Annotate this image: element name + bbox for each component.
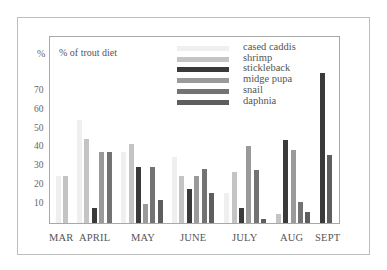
- bar-mar-shrimp: [63, 176, 68, 223]
- legend-swatch-shrimp: [177, 57, 229, 62]
- x-tick-april: APRIL: [79, 232, 110, 243]
- bar-sept-daphnia: [327, 155, 332, 223]
- legend-swatch-snail: [177, 89, 229, 94]
- bar-june-cased-caddis: [172, 157, 177, 223]
- bar-aug-daphnia: [305, 212, 310, 223]
- y-tick-30: 30: [34, 160, 48, 170]
- bar-may-cased-caddis: [121, 152, 126, 223]
- bar-april-midge-pupa: [99, 152, 104, 223]
- x-tick-mar: MAR: [49, 232, 74, 243]
- bar-june-daphnia: [209, 193, 214, 223]
- bar-aug-midge-pupa: [291, 150, 296, 223]
- legend-item-daphnia: daphnia: [177, 97, 317, 108]
- y-tick-20: 20: [34, 179, 48, 189]
- bar-april-stickleback: [92, 208, 97, 223]
- bar-aug-snail: [298, 202, 303, 223]
- legend-label: midge pupa: [243, 73, 292, 84]
- legend-swatch-stickleback: [177, 67, 229, 72]
- legend-swatch-midge-pupa: [177, 78, 229, 83]
- y-tick-60: 60: [34, 104, 48, 114]
- bar-july-midge-pupa: [246, 146, 251, 223]
- bar-may-stickleback: [136, 167, 141, 223]
- bar-july-daphnia: [261, 219, 266, 223]
- x-tick-aug: AUG: [280, 232, 303, 243]
- legend-label: cased caddis: [243, 41, 296, 52]
- bar-mar-cased-caddis: [56, 176, 61, 223]
- bar-june-midge-pupa: [194, 176, 199, 223]
- x-tick-july: JULY: [232, 232, 257, 243]
- y-tick-50: 50: [34, 123, 48, 133]
- y-tick-40: 40: [34, 141, 48, 151]
- bar-april-cased-caddis: [77, 120, 82, 223]
- bar-july-stickleback: [239, 208, 244, 223]
- bar-june-snail: [202, 169, 207, 223]
- legend-label: daphnia: [243, 95, 276, 106]
- legend-label: snail: [243, 84, 263, 95]
- x-tick-may: MAY: [131, 232, 155, 243]
- bar-july-cased-caddis: [224, 193, 229, 223]
- bar-june-shrimp: [179, 176, 184, 223]
- bar-may-daphnia: [158, 200, 163, 223]
- bar-april-snail: [107, 152, 112, 223]
- bar-sept-stickleback: [320, 73, 325, 223]
- chart-title: % of trout diet: [59, 47, 117, 58]
- x-tick-sept: SEPT: [315, 232, 340, 243]
- y-axis-unit-label: %: [37, 48, 45, 59]
- legend-swatch-cased-caddis: [177, 46, 229, 51]
- bar-aug-stickleback: [283, 140, 288, 223]
- bar-july-shrimp: [232, 172, 237, 223]
- legend-label: shrimp: [243, 52, 272, 63]
- y-tick-10: 10: [34, 198, 48, 208]
- bar-june-stickleback: [187, 189, 192, 223]
- bar-aug-shrimp: [276, 214, 281, 223]
- x-tick-june: JUNE: [180, 232, 206, 243]
- bar-may-midge-pupa: [143, 204, 148, 223]
- bar-july-snail: [254, 170, 259, 223]
- legend-swatch-daphnia: [177, 100, 229, 105]
- y-tick-70: 70: [34, 85, 48, 95]
- legend-label: stickleback: [243, 62, 290, 73]
- bar-may-snail: [150, 167, 155, 223]
- bar-april-shrimp: [84, 139, 89, 223]
- bar-may-shrimp: [129, 144, 134, 223]
